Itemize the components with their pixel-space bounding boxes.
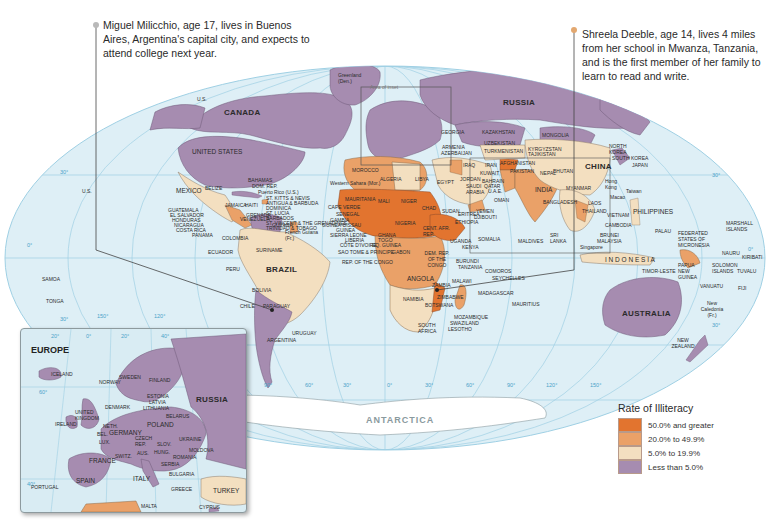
label-uruguay: URUGUAY: [292, 330, 317, 336]
grid-label-0-right: 0°: [748, 246, 753, 252]
inset-label-aus: AUS.: [137, 450, 149, 456]
inset-label-spain: SPAIN: [76, 477, 95, 484]
grid-label-30e: 30°: [425, 382, 433, 388]
label-indonesia: I N D O N E S I A: [605, 256, 655, 263]
label-china: CHINA: [585, 162, 612, 171]
label-yemen: YEMEN: [476, 208, 494, 214]
label-bangladesh: BANGLADESH: [543, 199, 577, 205]
grid-label-0-left: 0°: [27, 242, 32, 248]
label-rep-congo: REP. OF THE CONGO: [342, 259, 393, 265]
label-macao: Macao: [610, 194, 625, 200]
label-mauritania: MAURITANIA: [345, 196, 375, 202]
legend-label: 20.0% to 49.9%: [648, 435, 704, 444]
inset-label-belarus: BELARUS: [166, 413, 189, 419]
label-peru: PERU: [226, 266, 240, 272]
inset-label-romania: ROMANIA: [173, 454, 196, 460]
label-oman: OMAN: [494, 197, 509, 203]
legend-item: 5.0% to 19.9%: [618, 446, 768, 460]
label-sri-lanka: SRI LANKA: [550, 232, 564, 244]
label-papua-new-guinea: PAPUA NEW GUINEA: [678, 262, 704, 280]
label-zambia: ZAMBIA: [432, 282, 451, 288]
label-kenya: KENYA: [462, 244, 479, 250]
label-taiwan: Taiwan: [626, 188, 642, 194]
inset-grid-40: 40°: [27, 481, 35, 487]
label-egypt: EGYPT: [437, 179, 454, 185]
grid-label-120e: 120°: [546, 382, 557, 388]
label-sudan: SUDAN: [442, 208, 460, 214]
label-mauritius: MAURITIUS: [512, 301, 540, 307]
legend-swatch-lowest: [618, 460, 642, 474]
label-micronesia: FEDERATED STATES OF MICRONESIA: [678, 230, 720, 248]
label-tuvalu: TUVALU: [737, 268, 756, 274]
inset-label-moldova: MOLDOVA: [189, 447, 214, 453]
label-cape-verde: CAPE VERDE: [328, 204, 360, 210]
grid-label-60e: 60°: [466, 382, 474, 388]
label-eq-guinea: EQ. GUINEA: [372, 242, 401, 248]
label-bhutan: BHUTAN: [553, 168, 573, 174]
inset-label-bulgaria: BULGARIA: [169, 471, 194, 477]
label-philippines: PHILIPPINES: [633, 208, 673, 215]
legend-swatch-low: [618, 446, 642, 460]
grid-label-30s-right: 30°: [712, 322, 720, 328]
label-western-sahara: Western Sahara (Mor.): [330, 180, 380, 186]
callout-miguel: Miguel Milicchio, age 17, lives in Bueno…: [103, 18, 318, 60]
inset-label-russia: RUSSIA: [196, 395, 228, 404]
legend-swatch-mid-high: [618, 432, 642, 446]
label-new-caledonia: New Caledonia (Fr.): [700, 300, 724, 318]
label-algeria: ALGERIA: [380, 176, 402, 182]
inset-label-slov: SLOV.: [157, 441, 171, 447]
location-dot-mwanza: [435, 288, 439, 292]
label-iraq: IRAQ: [463, 162, 475, 168]
legend-label: 50.0% and greater: [648, 421, 714, 430]
label-botswana: BOTSWANA: [425, 302, 453, 308]
label-zimbabwe: ZIMBABWE: [437, 294, 464, 300]
inset-label-ukraine: UKRAINE: [179, 436, 201, 442]
label-hong-kong: Hong Kong: [605, 178, 619, 190]
label-seychelles: SEYCHELLES: [492, 275, 525, 281]
inset-label-denmark: DENMARK: [105, 404, 130, 410]
label-drc: DEM. REP. OF THE CONGO: [422, 250, 452, 268]
legend-item: 50.0% and greater: [618, 418, 768, 432]
label-pakistan: PAKISTAN: [510, 168, 534, 174]
label-fiji: FIJI: [738, 285, 746, 291]
label-kuwait: KUWAIT: [480, 170, 499, 176]
inset-grid-0: 0°: [86, 333, 91, 339]
legend-swatch-high: [618, 418, 642, 432]
label-gabon: GABON: [392, 249, 410, 255]
label-panama: PANAMA: [192, 232, 213, 238]
inset-label-ireland: IRELAND: [55, 421, 77, 427]
grid-label-150w: 150°: [97, 313, 108, 319]
label-mali: MALI: [378, 198, 390, 204]
label-timor-leste: TIMOR-LESTE: [642, 268, 676, 274]
label-mongolia: MONGOLIA: [542, 132, 569, 138]
europe-inset: EUROPE ICELAND IRELAND UNITED KINGDOM NO…: [20, 328, 247, 513]
label-haiti: HAITI: [245, 202, 258, 208]
inset-label-finland: FINLAND: [149, 377, 170, 383]
label-thailand: THAILAND: [582, 208, 607, 214]
grid-label-150e: 150°: [590, 382, 601, 388]
label-guyana: GUYANA: [272, 222, 293, 228]
grid-label-90e: 90°: [507, 382, 515, 388]
label-venezuela: VENEZUELA: [240, 216, 270, 222]
label-jamaica: JAMAICA: [225, 202, 247, 208]
label-lesotho: LESOTHO: [448, 326, 472, 332]
label-india: INDIA: [535, 186, 552, 193]
inset-label-sweden: SWEDEN: [119, 374, 141, 380]
grid-label-0: 0°: [387, 382, 392, 388]
label-comoros: COMOROS: [485, 268, 511, 274]
inset-label-cyprus: CYPRUS: [199, 504, 220, 510]
label-colombia: COLOMBIA: [222, 235, 248, 241]
label-canada: CANADA: [224, 108, 260, 117]
label-samoa: SAMOA: [42, 276, 60, 282]
label-russia: RUSSIA: [503, 98, 535, 107]
label-us-alaska: U.S.: [197, 96, 207, 102]
inset-grid-20w: 20°: [51, 333, 59, 339]
label-nigeria: NIGERIA: [395, 220, 416, 226]
inset-grid-60: 60°: [39, 389, 47, 395]
label-vanuatu: VANUATU: [700, 283, 723, 289]
label-north-korea: NORTH KOREA: [609, 143, 629, 155]
label-french-guiana: French Guiana (Fr.): [285, 229, 323, 241]
legend-item: Less than 5.0%: [618, 460, 768, 474]
callout-marker-shreela: [571, 27, 577, 33]
label-united-states: UNITED STATES: [192, 148, 242, 155]
